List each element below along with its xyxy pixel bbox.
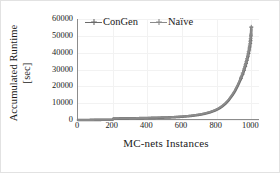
y-axis-tick-label: 40000 xyxy=(52,48,73,56)
legend-label-congen: ConGen xyxy=(103,17,138,28)
plot-area xyxy=(77,19,259,120)
chart-figure: Accumulated Runtime [sec] 01000020000300… xyxy=(0,0,280,173)
series-markers xyxy=(239,25,253,79)
y-axis-tick-label: 10000 xyxy=(52,99,73,107)
series-line xyxy=(78,29,251,120)
x-axis-tick-label: 600 xyxy=(175,122,188,130)
series-congen xyxy=(78,26,253,120)
x-axis-tick-label: 1000 xyxy=(242,122,259,130)
series-line xyxy=(78,28,251,120)
y-axis-tick-label: 30000 xyxy=(52,65,73,73)
legend-marker-icon xyxy=(150,18,167,27)
x-axis-tick-label: 400 xyxy=(140,122,153,130)
x-axis-tick-label: 200 xyxy=(105,122,118,130)
x-axis-tick-label: 800 xyxy=(209,122,222,130)
y-axis-tick-labels: 0100002000030000400005000060000 xyxy=(31,19,75,120)
y-axis-tick-label: 50000 xyxy=(52,32,73,40)
legend-marker-icon xyxy=(85,18,102,27)
x-axis-title: MC-nets Instances xyxy=(61,137,271,149)
cross-marker-icon xyxy=(155,19,162,26)
series-na-ve xyxy=(78,25,253,120)
y-axis-tick-label: 60000 xyxy=(52,15,73,23)
cross-marker-icon xyxy=(90,19,97,26)
x-axis-tick-label: 0 xyxy=(75,122,79,130)
legend-item-naive[interactable]: Naïve xyxy=(150,17,193,28)
chart-legend: ConGen Naïve xyxy=(85,17,193,28)
legend-item-congen[interactable]: ConGen xyxy=(85,17,138,28)
series-layer xyxy=(78,19,260,120)
y-axis-tick-label: 20000 xyxy=(52,82,73,90)
y-axis-tick-label: 0 xyxy=(69,116,73,124)
legend-label-naive: Naïve xyxy=(168,17,193,28)
x-axis-tick-labels: 02004006008001000 xyxy=(77,122,259,136)
y-axis-title-line1: Accumulated Runtime xyxy=(8,17,19,129)
